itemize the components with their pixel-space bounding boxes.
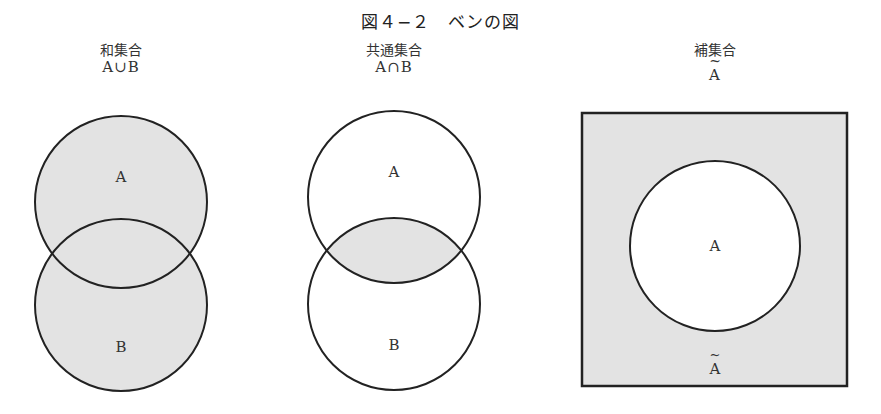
union-label-a: A: [115, 168, 127, 186]
intersection-diagram: A B: [308, 111, 480, 390]
intersection-label-a: A: [388, 163, 400, 181]
union-diagram: A B: [35, 116, 207, 391]
intersection-label-b: B: [388, 336, 399, 354]
complement-diagram: A ~ A: [582, 113, 847, 386]
complement-outside-label: A: [709, 360, 721, 378]
union-label-b: B: [115, 338, 126, 356]
venn-diagrams: A B A B A ~ A: [0, 0, 881, 414]
complement-label-a: A: [709, 237, 721, 255]
